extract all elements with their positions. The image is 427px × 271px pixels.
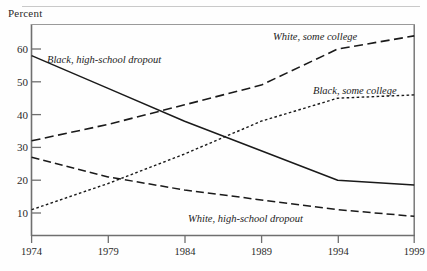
- x-axis-ticks: [32, 236, 415, 243]
- y-tick-label-10: 10: [6, 207, 28, 219]
- y-tick-label-60: 60: [6, 43, 28, 55]
- y-tick-label-20: 20: [6, 174, 28, 186]
- series-line-white-high-school-dropout: [32, 157, 415, 216]
- x-tick-label-1984: 1984: [162, 246, 208, 257]
- series-line-black-high-school-dropout: [32, 56, 415, 186]
- x-tick-label-1979: 1979: [85, 246, 131, 257]
- x-tick-label-1994: 1994: [315, 246, 361, 257]
- y-axis-ticks: [32, 49, 41, 213]
- y-tick-label-30: 30: [6, 141, 28, 153]
- y-tick-label-40: 40: [6, 109, 28, 121]
- line-chart-plot: [0, 0, 427, 271]
- series-annotation-white-high-school-dropout: White, high-school dropout: [188, 213, 303, 224]
- x-tick-label-1974: 1974: [9, 246, 55, 257]
- series-annotation-black-some-college: Black, some college: [313, 85, 397, 96]
- series-line-black-some-college: [32, 95, 415, 210]
- x-tick-label-1989: 1989: [239, 246, 285, 257]
- y-tick-label-50: 50: [6, 76, 28, 88]
- series-annotation-white-some-college: White, some college: [273, 31, 357, 42]
- x-tick-label-1999: 1999: [391, 246, 427, 257]
- series-annotation-black-high-school-dropout: Black, high-school dropout: [47, 54, 161, 65]
- chart-figure: Percent: [0, 0, 427, 271]
